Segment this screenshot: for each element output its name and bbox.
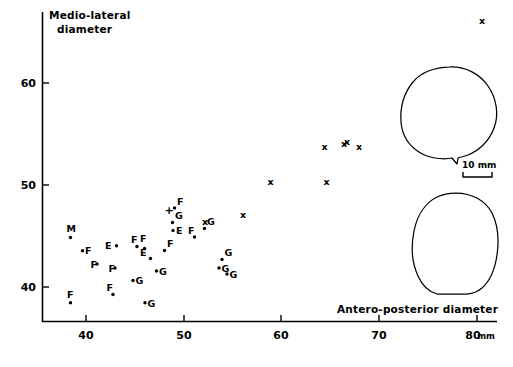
- point-label: G: [230, 269, 238, 280]
- data-point-x: x: [240, 209, 246, 220]
- scatter-figure: 40 50 60 70 80 mm 60 50 40 Medio-lateral…: [0, 0, 513, 367]
- data-point: G: [220, 247, 232, 261]
- data-point: G: [155, 266, 167, 277]
- point-label: G: [207, 216, 215, 227]
- data-point: F: [163, 238, 174, 252]
- data-point: G: [143, 298, 155, 309]
- data-point: F: [131, 234, 139, 248]
- data-point-plus: +: [164, 204, 173, 217]
- data-point: F: [173, 196, 184, 210]
- axis-lines: [42, 12, 497, 322]
- point-label: F: [109, 263, 116, 274]
- lower-bone-cross-section: [412, 193, 498, 294]
- point-label: G: [175, 210, 183, 221]
- point-label: F: [85, 245, 92, 256]
- data-point-x: x: [323, 176, 329, 187]
- scale-bar: 10 mm: [462, 160, 496, 177]
- point-label: G: [222, 263, 230, 274]
- data-point: F: [67, 289, 74, 304]
- data-series-labelled: M F F E F F F F F E G G F G G E F F G G …: [67, 196, 238, 309]
- y-tick-label-50: 50: [21, 179, 37, 192]
- data-point: F: [91, 259, 99, 270]
- x-tick-label-60: 60: [273, 329, 289, 342]
- data-point-x: x: [479, 15, 485, 26]
- data-point-x: x: [202, 216, 208, 227]
- point-label: F: [107, 282, 114, 293]
- data-point: G: [217, 263, 229, 274]
- upper-bone-cross-section: [401, 67, 497, 164]
- data-point: F: [81, 245, 92, 256]
- data-series-plus: +: [164, 204, 173, 217]
- point-label: G: [148, 298, 156, 309]
- point-label: F: [140, 233, 147, 244]
- point-label: F: [188, 225, 195, 236]
- data-point-x: x: [344, 136, 350, 147]
- point-label: F: [67, 289, 74, 300]
- point-label: E: [140, 247, 147, 258]
- point-label: E: [105, 240, 112, 251]
- y-axis-title-line1: Medio-lateral: [49, 9, 131, 21]
- data-point: F: [188, 225, 196, 239]
- point-label: M: [67, 223, 76, 234]
- point-label: F: [167, 238, 174, 249]
- x-tick-label-40: 40: [78, 329, 94, 342]
- x-axis-unit-label: mm: [477, 331, 495, 341]
- data-point: G: [131, 275, 143, 286]
- x-axis-title: Antero-posterior diameter: [337, 303, 499, 315]
- y-tick-label-40: 40: [21, 281, 37, 294]
- x-tick-label-50: 50: [176, 329, 192, 342]
- data-point: F: [107, 282, 115, 296]
- data-point: F: [109, 263, 117, 274]
- data-point: E: [140, 247, 152, 260]
- point-label: E: [176, 225, 183, 236]
- data-point: E: [171, 225, 182, 236]
- y-tick-label-60: 60: [21, 77, 37, 90]
- data-point-x: x: [267, 176, 273, 187]
- point-label: F: [177, 196, 184, 207]
- y-axis-title-line2: diameter: [57, 23, 113, 35]
- point-label: F: [91, 259, 98, 270]
- data-point: E: [105, 240, 118, 251]
- x-tick-marks: [86, 315, 477, 322]
- point-label: F: [131, 234, 138, 245]
- y-tick-marks: [43, 83, 50, 287]
- data-point-x: x: [356, 141, 362, 152]
- point-label: G: [159, 266, 167, 277]
- point-label: G: [136, 275, 144, 286]
- plot-canvas: 40 50 60 70 80 mm 60 50 40 Medio-lateral…: [0, 0, 513, 367]
- point-label: G: [225, 247, 233, 258]
- x-tick-label-70: 70: [371, 329, 387, 342]
- data-point: M: [67, 223, 76, 239]
- data-point-x: x: [321, 141, 327, 152]
- scale-bar-label: 10 mm: [462, 160, 496, 170]
